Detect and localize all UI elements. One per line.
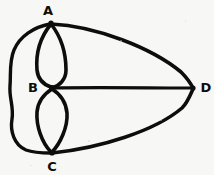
paper-speck: [88, 140, 90, 142]
vertex-node-D: [190, 85, 195, 90]
paper-speck: [185, 20, 186, 22]
vertex-label-A: A: [43, 4, 53, 17]
edge-C-D-bottom: [52, 89, 193, 153]
vertex-node-C: [49, 150, 54, 155]
vertex-node-A: [48, 20, 53, 25]
graph-figure: A B C D: [0, 0, 214, 175]
edge-A-D-top: [51, 24, 193, 88]
vertex-label-B: B: [28, 81, 38, 94]
edge-A-B-right: [51, 24, 66, 88]
edge-A-B-left: [37, 24, 51, 87]
vertex-label-C: C: [47, 160, 57, 173]
vertex-node-B: [49, 85, 55, 91]
vertex-label-D: D: [201, 81, 212, 94]
edge-B-C-left: [37, 89, 52, 152]
edge-B-C-right: [52, 89, 67, 152]
paper-speck: [120, 40, 122, 42]
paper-speck: [160, 120, 162, 121]
paper-speck: [30, 165, 32, 166]
